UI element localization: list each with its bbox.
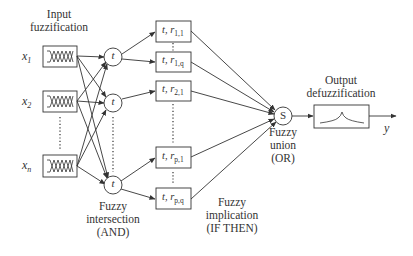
input-fuzzification-label: Input fuzzification (30, 8, 88, 34)
label-line: fuzzification (30, 21, 88, 34)
label-line: intersection (84, 213, 142, 226)
label-line: (AND) (84, 226, 142, 239)
input-to-t-connections (77, 56, 108, 184)
fuzzy-intersection-label: Fuzzy intersection (AND) (84, 200, 142, 239)
label-line: Input (30, 8, 88, 21)
defuzzification-box (314, 105, 369, 128)
rule-to-union-connections (191, 31, 276, 199)
label-line: Output (305, 74, 377, 87)
rule-label-1-q: t, r1,q (162, 54, 184, 68)
fuzzy-implication-label: Fuzzy implication (IF THEN) (200, 196, 264, 235)
input-var-xn: xn (22, 158, 31, 174)
t-node-label-1: t (104, 49, 122, 61)
label-line: (OR) (262, 152, 304, 165)
union-node-label: S (277, 109, 289, 122)
input-var-x2: x2 (22, 94, 31, 110)
t-node-label-2: t (104, 95, 122, 107)
label-line: (IF THEN) (200, 222, 264, 235)
rule-label-p-q: t, rp,q (162, 191, 184, 205)
label-line: implication (200, 209, 264, 222)
label-line: defuzzification (305, 87, 377, 100)
rule-label-1-1: t, r1,1 (162, 24, 184, 38)
rule-label-2-1: t, r2,1 (162, 83, 184, 97)
label-line: Fuzzy (84, 200, 142, 213)
label-line: union (262, 139, 304, 152)
rule-label-p-1: t, rp,1 (162, 150, 184, 164)
label-line: Fuzzy (262, 126, 304, 139)
output-defuzzification-label: Output defuzzification (305, 74, 377, 100)
t-node-label-n: t (104, 177, 122, 189)
t-to-rule-connections (121, 32, 155, 199)
output-var-y: y (384, 121, 389, 136)
label-line: Fuzzy (200, 196, 264, 209)
fuzzy-union-label: Fuzzy union (OR) (262, 126, 304, 165)
input-var-x1: x1 (22, 49, 31, 65)
